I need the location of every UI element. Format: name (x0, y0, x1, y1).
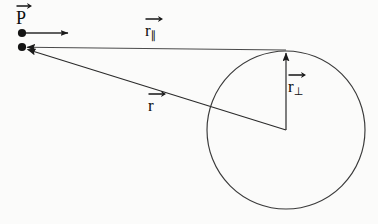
point-p-upper-dot (18, 29, 26, 37)
vector-arrow-icon (16, 2, 32, 10)
vector-arrow-icon (148, 90, 166, 98)
physics-vector-diagram: P r∥ r⊥ r (0, 0, 378, 224)
label-r-perpendicular-subscript: ⊥ (294, 85, 303, 97)
point-p-lower-dot (18, 43, 26, 51)
vector-arrow-icon (288, 71, 306, 79)
label-point-p-text: P (16, 8, 26, 28)
vector-arrow-icon (145, 15, 163, 23)
label-r-parallel: r∥ (145, 15, 163, 41)
label-r: r (148, 90, 166, 114)
r-parallel-vector (27, 47, 286, 50)
diagram-canvas (0, 0, 378, 224)
label-point-p: P (16, 2, 32, 27)
label-r-perpendicular: r⊥ (288, 71, 306, 97)
label-r-parallel-subscript: ∥ (151, 29, 156, 41)
label-r-text: r (148, 96, 154, 115)
